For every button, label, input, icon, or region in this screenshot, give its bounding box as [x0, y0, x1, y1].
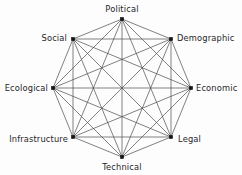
node-label-legal: Legal: [178, 135, 201, 143]
graph-node-social[interactable]: [71, 37, 74, 40]
graph-edge-demographic-ecological: [53, 39, 171, 88]
graph-edge-technical-social: [73, 39, 122, 157]
graph-node-economic[interactable]: [189, 86, 192, 89]
graph-node-political[interactable]: [120, 17, 123, 20]
graph-edge-legal-ecological: [53, 88, 171, 137]
node-label-ecological: Ecological: [5, 84, 48, 92]
graph-edge-demographic-technical: [122, 39, 171, 157]
diagram-canvas: PoliticalDemographicEconomicLegalTechnic…: [0, 0, 242, 175]
node-label-political: Political: [105, 5, 138, 13]
node-label-demographic: Demographic: [177, 34, 234, 42]
graph-edge-economic-social: [73, 39, 191, 88]
graph-node-ecological[interactable]: [51, 86, 54, 89]
graph-edge-political-infrastructure: [73, 19, 122, 137]
graph-node-infrastructure[interactable]: [71, 135, 74, 138]
graph-node-demographic[interactable]: [169, 37, 172, 40]
graph-node-technical[interactable]: [120, 155, 123, 158]
graph-edge-economic-infrastructure: [73, 88, 191, 137]
node-label-technical: Technical: [102, 163, 141, 171]
graph-node-legal[interactable]: [169, 135, 172, 138]
graph-edge-political-legal: [122, 19, 171, 137]
node-label-economic: Economic: [196, 84, 237, 92]
node-label-infrastructure: Infrastructure: [9, 135, 68, 143]
node-label-social: Social: [42, 34, 68, 42]
